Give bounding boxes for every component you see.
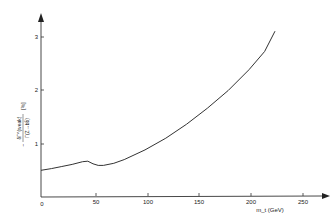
chart: 0 50 100 150 200 250 m_t (GeV) 1 2 3 δΓ^… [0,0,334,220]
svg-text:−: − [20,143,26,146]
svg-text:Γ(Z→bb̄): Γ(Z→bb̄) [24,118,30,138]
x-tick-label: 0 [40,201,44,207]
x-axis-label: m_t (GeV) [256,207,284,213]
y-axis-label: δΓ^(weak) Γ(Z→bb̄) [%] − [16,102,30,147]
y-tick-label: 2 [35,87,39,93]
x-ticks [96,193,303,196]
x-tick-label: 250 [298,199,309,205]
y-axis-arrow-icon [38,13,44,22]
x-tick-label: 100 [143,199,154,205]
x-tick-label: 200 [246,199,257,205]
data-curve [41,31,275,170]
svg-text:δΓ^(weak): δΓ^(weak) [16,116,22,139]
y-tick-label: 3 [35,34,39,40]
x-axis-arrow-icon [322,193,330,199]
x-tick-label: 150 [194,199,205,205]
x-axis [41,196,322,197]
y-tick-label: 1 [35,141,39,147]
svg-text:[%]: [%] [20,102,26,110]
x-tick-label: 50 [93,199,100,205]
